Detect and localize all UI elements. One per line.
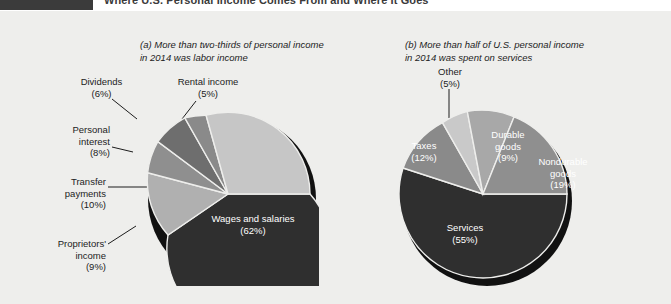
label-dividends: Dividends (6%) — [64, 76, 139, 99]
label-wages-and-salaries: Wages and salaries (62%) — [188, 213, 318, 236]
pie-chart-personal-income-sources — [143, 110, 319, 286]
panel-b-caption: (b) More than half of U.S. personal inco… — [405, 39, 655, 64]
label-other: Other (5%) — [420, 66, 480, 89]
page-title: Where U.S. Personal Income Comes From an… — [104, 0, 429, 6]
header-tab-block — [0, 0, 93, 10]
label-personal-interest: Personal interest (8%) — [32, 124, 110, 159]
label-services: Services (55%) — [425, 222, 505, 245]
label-taxes: Taxes (12%) — [399, 140, 449, 163]
figure-body: (a) More than two-thirds of personal inc… — [0, 11, 671, 304]
label-transfer-payments: Transfer payments (10%) — [28, 176, 106, 211]
pie-a-slices — [143, 110, 319, 286]
label-rental-income: Rental income (5%) — [168, 76, 248, 99]
label-nondurable-goods: Nondurable goods (19%) — [520, 156, 606, 191]
label-proprietors-income: Proprietors' income (9%) — [22, 238, 106, 273]
panel-a-caption: (a) More than two-thirds of personal inc… — [140, 39, 390, 64]
figure-container: Where U.S. Personal Income Comes From an… — [0, 0, 671, 304]
